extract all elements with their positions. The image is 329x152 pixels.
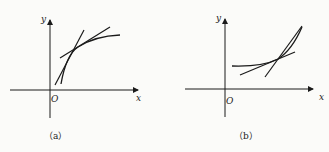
tangent-line-steep [55, 30, 84, 85]
convex-curve [232, 27, 302, 66]
diagram-canvas: y x O （a） y x O （b） [0, 0, 329, 152]
caption-a: （a） [44, 131, 67, 141]
y-axis-label: y [40, 14, 47, 24]
origin-label: O [226, 96, 234, 106]
origin-label: O [51, 94, 59, 104]
tangent-line-steep [265, 26, 302, 77]
figure-a: y x O （a） [10, 14, 141, 141]
tangent-line-shallow [60, 27, 110, 58]
concave-curve [61, 35, 120, 84]
x-axis-label: x [136, 93, 141, 103]
figure-b: y x O （b） [185, 13, 324, 141]
x-axis-label: x [319, 92, 324, 102]
tangent-line-shallow [240, 52, 295, 75]
caption-b: （b） [234, 131, 258, 141]
y-axis-label: y [215, 13, 222, 23]
